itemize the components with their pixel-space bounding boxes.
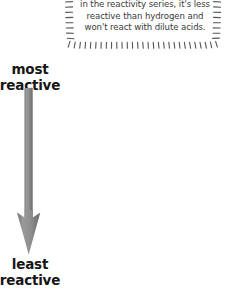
down-arrow-icon <box>14 88 50 256</box>
label-least-reactive-line-2: reactive <box>0 273 72 289</box>
reactivity-arrow-group: most reactive least reactive <box>0 0 110 308</box>
label-least-reactive: least reactive <box>0 257 72 288</box>
label-most-reactive-line-1: most <box>0 62 72 78</box>
label-least-reactive-line-1: least <box>0 257 72 273</box>
